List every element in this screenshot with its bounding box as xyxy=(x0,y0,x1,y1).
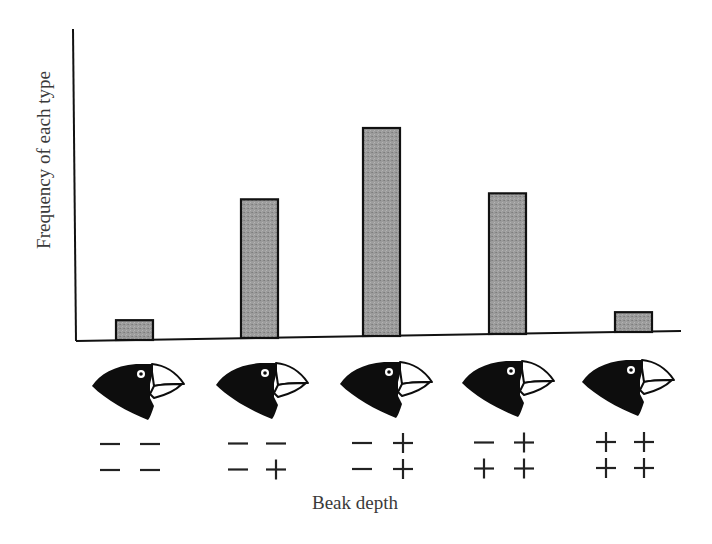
plus-sign-icon xyxy=(596,458,616,478)
genotype-signs-group xyxy=(100,432,654,480)
plus-sign-icon xyxy=(596,432,616,452)
x-axis-label: Beak depth xyxy=(312,492,398,514)
plus-sign-icon xyxy=(266,460,286,480)
finch-head-deep-beak-icon xyxy=(582,360,674,416)
bar-chart xyxy=(0,0,712,544)
bar-4 xyxy=(489,193,526,334)
bar-3 xyxy=(363,128,400,336)
y-axis xyxy=(73,29,76,341)
finch-head-beak-icon xyxy=(462,361,554,417)
plus-sign-icon xyxy=(514,433,534,453)
plus-sign-icon xyxy=(474,459,494,479)
bar-5 xyxy=(615,312,652,332)
plus-sign-icon xyxy=(514,459,534,479)
y-axis-label: Frequency of each type xyxy=(33,71,55,249)
plus-sign-icon xyxy=(634,458,654,478)
plus-sign-icon xyxy=(393,459,413,479)
finch-head-beak-icon xyxy=(340,362,432,418)
bar-2 xyxy=(241,199,278,338)
finch-heads-group xyxy=(92,360,674,420)
plus-sign-icon xyxy=(393,433,413,453)
bar-1 xyxy=(116,320,153,340)
plus-sign-icon xyxy=(634,432,654,452)
bars-group xyxy=(116,128,652,340)
finch-head-beak-icon xyxy=(216,363,308,419)
finch-head-shallow-beak-icon xyxy=(92,364,184,420)
